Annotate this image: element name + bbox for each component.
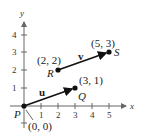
x-tick-3: 3 bbox=[73, 110, 78, 120]
vector-u-label: u bbox=[39, 86, 45, 98]
x-axis-label: x bbox=[129, 101, 134, 111]
vector-v-label: v bbox=[78, 50, 84, 62]
point-S-label: S bbox=[114, 46, 120, 58]
point-P-label: P bbox=[13, 108, 21, 120]
x-tick-1: 1 bbox=[39, 110, 44, 120]
point-Q bbox=[72, 85, 77, 90]
y-tick-1: 1 bbox=[12, 83, 17, 93]
x-tick-5: 5 bbox=[107, 110, 112, 120]
point-Q-coords: (3, 1) bbox=[79, 74, 103, 87]
y-tick-4: 4 bbox=[12, 30, 17, 40]
vector-u bbox=[24, 89, 72, 106]
point-Q-label: Q bbox=[78, 90, 86, 102]
vector-diagram: x y 1 2 3 4 5 1 2 3 4 u v P (0, 0) Q (3,… bbox=[0, 0, 141, 139]
point-S-coords: (5, 3) bbox=[91, 37, 115, 50]
point-R-coords: (2, 2) bbox=[37, 54, 61, 67]
point-S bbox=[106, 49, 111, 54]
y-tick-2: 2 bbox=[12, 65, 17, 75]
x-tick-4: 4 bbox=[90, 110, 95, 120]
point-R-label: R bbox=[46, 67, 54, 79]
point-P bbox=[21, 103, 26, 108]
y-tick-3: 3 bbox=[12, 47, 17, 57]
x-tick-2: 2 bbox=[56, 110, 61, 120]
point-P-coords: (0, 0) bbox=[28, 120, 52, 133]
y-axis-label: y bbox=[19, 8, 24, 18]
point-R bbox=[55, 67, 60, 72]
origin-leader-line bbox=[26, 110, 33, 120]
